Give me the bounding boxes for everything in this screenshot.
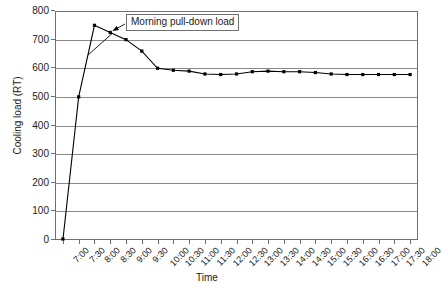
x-tick-mark <box>94 240 95 244</box>
annotation-morning-pull-down-load: Morning pull-down load <box>126 14 239 31</box>
x-tick-mark <box>110 240 111 244</box>
x-tick-mark <box>142 240 143 244</box>
x-tick-mark <box>173 240 174 244</box>
x-tick-mark <box>158 240 159 244</box>
x-tick-mark <box>221 240 222 244</box>
x-tick-mark <box>189 240 190 244</box>
x-tick-mark <box>237 240 238 244</box>
x-tick-mark <box>315 240 316 244</box>
x-tick-mark <box>331 240 332 244</box>
x-tick-mark <box>284 240 285 244</box>
x-tick-mark <box>347 240 348 244</box>
x-tick-mark <box>205 240 206 244</box>
x-tick-mark <box>268 240 269 244</box>
x-tick-label: 9:30 <box>151 246 170 265</box>
x-tick-mark <box>252 240 253 244</box>
x-tick-mark <box>363 240 364 244</box>
x-tick-mark <box>63 240 64 244</box>
x-tick-mark <box>394 240 395 244</box>
x-tick-mark <box>410 240 411 244</box>
x-tick-mark <box>126 240 127 244</box>
x-tick-mark <box>300 240 301 244</box>
x-axis-title: Time <box>0 272 432 283</box>
x-tick-mark <box>79 240 80 244</box>
x-tick-mark <box>379 240 380 244</box>
x-axis-title-text: Time <box>196 272 218 283</box>
